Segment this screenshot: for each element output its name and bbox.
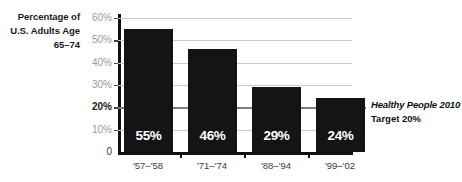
x-tick-mark-3	[308, 152, 310, 158]
chart-container: Percentage of U.S. Adults Age 65–74 60% …	[0, 0, 462, 182]
bar-2: 29%	[252, 87, 301, 152]
y-axis-caption-line-1: Percentage of	[0, 10, 80, 24]
x-axis-label-3: '99–'02	[325, 160, 355, 171]
y-tick-label-30: 30%	[92, 80, 112, 90]
y-tick-label-40: 40%	[92, 58, 112, 68]
y-tick-mark-50	[114, 40, 118, 41]
bar-value-1: 46%	[188, 128, 237, 143]
y-axis-caption-line-3: 65–74	[0, 38, 80, 52]
x-axis-label-0: '57–'58	[133, 160, 163, 171]
y-tick-label-20: 20%	[92, 102, 112, 112]
y-tick-label-10: 10%	[92, 125, 112, 135]
target-annotation-title: Healthy People 2010	[371, 98, 462, 112]
gridline-0: 0	[118, 152, 352, 153]
bar-0: 55%	[124, 29, 173, 152]
target-annotation-value: Target 20%	[371, 112, 462, 126]
bar-3: 24%	[316, 98, 365, 152]
y-axis-caption: Percentage of U.S. Adults Age 65–74	[0, 10, 80, 52]
y-tick-label-50: 50%	[92, 35, 112, 45]
bar-value-0: 55%	[124, 128, 173, 143]
x-tick-mark-2	[244, 152, 246, 158]
bar-1: 46%	[188, 49, 237, 152]
y-tick-mark-40	[114, 63, 118, 64]
x-axis-label-1: '71–'74	[197, 160, 227, 171]
bar-value-2: 29%	[252, 128, 301, 143]
y-axis-caption-line-2: U.S. Adults Age	[0, 24, 80, 38]
y-tick-mark-30	[114, 85, 118, 86]
gridline-60: 60%	[118, 18, 352, 19]
y-tick-label-0: 0	[106, 147, 112, 157]
y-axis-line	[118, 14, 121, 152]
y-tick-label-60: 60%	[92, 13, 112, 23]
y-tick-mark-60	[114, 18, 118, 19]
y-tick-mark-10	[114, 130, 118, 131]
y-tick-mark-20	[114, 107, 118, 108]
bar-value-3: 24%	[316, 128, 365, 143]
x-axis-label-2: '88–'94	[261, 160, 291, 171]
plot-area: 60% 50% 40% 30% 20% 10% 0 55% 4	[118, 18, 352, 152]
target-annotation: Healthy People 2010 Target 20%	[371, 98, 462, 125]
x-tick-mark-1	[180, 152, 182, 158]
